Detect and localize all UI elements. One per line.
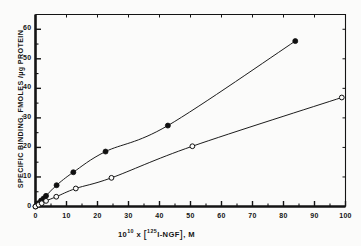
x-tick-label: 70 xyxy=(244,212,262,219)
y-tick-label: 10 xyxy=(17,172,32,179)
data-point-filled-circle xyxy=(54,183,59,188)
y-tick-label: 20 xyxy=(17,142,32,149)
x-axis-title-times: x xyxy=(136,230,141,239)
y-tick-label: 40 xyxy=(17,83,32,90)
x-axis-title-isotope: 125 xyxy=(147,228,157,234)
data-point-filled-circle xyxy=(71,170,76,175)
x-tick-label: 20 xyxy=(89,212,107,219)
binding-curve-chart xyxy=(0,0,361,246)
axis-ticks xyxy=(36,15,346,207)
series-filled-circles xyxy=(33,39,298,209)
data-point-filled-circle xyxy=(103,149,108,154)
data-series-group xyxy=(33,39,344,209)
x-tick-label: 40 xyxy=(151,212,169,219)
data-point-open-circle xyxy=(73,186,78,191)
x-tick-label: 0 xyxy=(27,212,45,219)
data-point-open-circle xyxy=(54,194,59,199)
y-tick-label: 50 xyxy=(17,54,32,61)
x-axis-title-base: 10 xyxy=(118,230,127,239)
x-axis-title-exponent: 10 xyxy=(127,228,134,234)
x-axis-title-ligand: I-NGF xyxy=(157,230,180,239)
data-point-open-circle xyxy=(339,95,344,100)
data-point-filled-circle xyxy=(165,123,170,128)
x-tick-label: 90 xyxy=(306,212,324,219)
x-tick-label: 10 xyxy=(58,212,76,219)
x-tick-label: 60 xyxy=(213,212,231,219)
data-point-open-circle xyxy=(190,144,195,149)
x-tick-label: 100 xyxy=(337,212,355,219)
data-point-open-circle xyxy=(109,175,114,180)
y-tick-label: 0 xyxy=(20,202,32,209)
figure-panel: SPECIFIC BINDING, FMOLES /µg PROTEIN 101… xyxy=(0,0,361,246)
data-point-open-circle xyxy=(44,198,49,203)
axes-frame xyxy=(36,15,346,207)
data-point-filled-circle xyxy=(44,193,49,198)
x-axis-title: 1010 x [125I-NGF], M xyxy=(118,228,195,240)
y-tick-label: 60 xyxy=(17,24,32,31)
x-axis-title-unit: , M xyxy=(183,230,195,239)
x-tick-label: 80 xyxy=(275,212,293,219)
x-tick-label: 50 xyxy=(182,212,200,219)
x-tick-label: 30 xyxy=(120,212,138,219)
y-tick-label: 30 xyxy=(17,113,32,120)
data-point-filled-circle xyxy=(293,39,298,44)
